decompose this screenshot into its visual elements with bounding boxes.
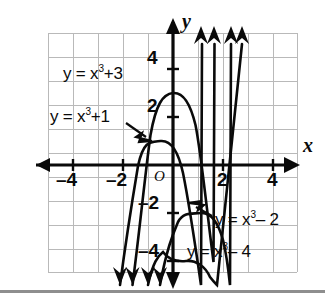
cubic-functions-graph: y = x3+3 y = x3+1 y = x3– 2 y = x3– 4 y … xyxy=(0,0,325,300)
arrow-line-plus1 xyxy=(126,123,146,137)
y-axis-label: y xyxy=(182,11,191,31)
page-edge-rule xyxy=(0,290,325,293)
curve-top-arrowheads xyxy=(194,26,249,44)
label-cubic-plus1: y = x3+1 xyxy=(50,108,110,125)
x-axis-label: x xyxy=(303,135,313,155)
y-tick-label-4: 4 xyxy=(147,48,158,67)
y-axis-arrow-down xyxy=(166,272,180,289)
x-tick-label-4: 4 xyxy=(267,170,278,189)
y-tick-label-2: 2 xyxy=(147,96,158,115)
x-tick-label-2: 2 xyxy=(217,170,228,189)
label-cubic-minus4: y = x3– 4 xyxy=(187,243,251,260)
plot-canvas xyxy=(0,0,325,300)
origin-label: O xyxy=(154,169,165,184)
label-cubic-plus3: y = x3+3 xyxy=(63,65,123,82)
x-axis-arrow-left xyxy=(36,158,50,172)
y-tick-label-neg4: –4 xyxy=(138,241,159,260)
x-tick-label-neg4: –4 xyxy=(56,170,77,189)
x-tick-label-neg2: –2 xyxy=(106,170,127,189)
y-tick-label-neg2: –2 xyxy=(138,193,159,212)
y-axis-arrow-up xyxy=(166,18,180,34)
x-axis-arrow-right xyxy=(284,157,300,173)
label-cubic-minus2: y = x3– 2 xyxy=(215,211,279,228)
